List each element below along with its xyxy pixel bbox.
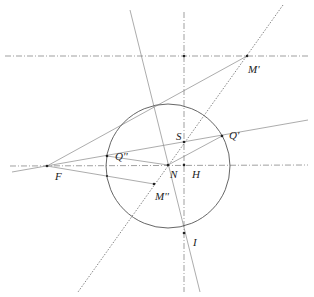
point-S <box>183 141 186 144</box>
point-M1 <box>246 55 249 58</box>
label-Q-double-prime: Q'' <box>115 151 128 162</box>
point-N <box>167 164 170 167</box>
point-F <box>46 165 49 168</box>
label-M-prime: M' <box>248 64 260 75</box>
line-F-Q1 <box>12 120 308 172</box>
diagram-lines <box>0 0 314 297</box>
label-N: N <box>170 169 177 180</box>
point-circle-left-upper <box>106 155 108 157</box>
line-F-M1 <box>47 56 247 166</box>
point-top <box>183 55 186 58</box>
point-I <box>183 232 186 235</box>
point-M2 <box>153 183 156 186</box>
geometry-diagram: M' S Q' Q'' F N H M'' I <box>0 0 314 297</box>
label-M-double-prime: M'' <box>155 191 169 202</box>
line-F-M2 <box>47 166 154 184</box>
label-I: I <box>193 237 197 248</box>
horizontal-axis <box>10 165 308 166</box>
label-H: H <box>192 169 200 180</box>
label-Q-prime: Q' <box>229 130 239 141</box>
label-S: S <box>176 131 182 142</box>
point-H <box>183 164 186 167</box>
point-Q1 <box>221 135 224 138</box>
line-through-N-I <box>130 10 200 292</box>
label-F: F <box>55 171 62 182</box>
point-circle-left-lower <box>106 175 108 177</box>
